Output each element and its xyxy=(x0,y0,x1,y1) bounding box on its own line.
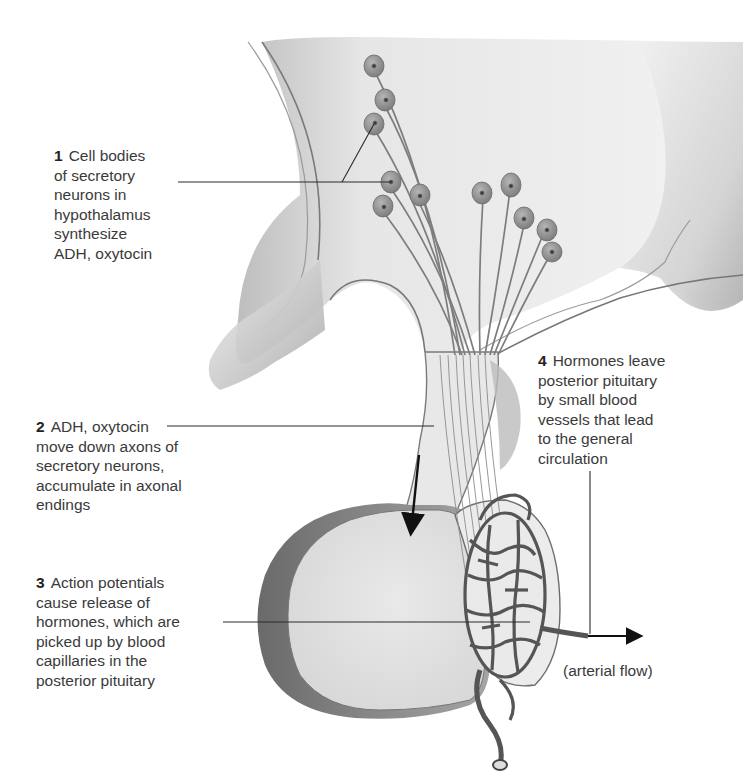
arterial-flow-label: (arterial flow) xyxy=(563,662,653,680)
capillary-network xyxy=(465,495,588,765)
anterior-pituitary-lobe xyxy=(258,503,491,718)
label-number: 2 xyxy=(36,418,45,435)
label-1-cell-bodies: 1Cell bodies of secretory neurons in hyp… xyxy=(54,146,152,263)
label-2-axon-transport: 2ADH, oxytocin move down axons of secret… xyxy=(36,417,182,515)
hypothalamus-tissue xyxy=(209,37,743,390)
pituitary-stalk xyxy=(405,352,521,515)
label-number: 1 xyxy=(54,147,63,164)
label-4-circulation: 4Hormones leave posterior pituitary by s… xyxy=(538,351,665,468)
label-number: 3 xyxy=(36,574,45,591)
label-3-hormone-release: 3Action potentials cause release of horm… xyxy=(36,573,180,690)
vessel-opening xyxy=(493,760,507,770)
label-number: 4 xyxy=(538,352,547,369)
